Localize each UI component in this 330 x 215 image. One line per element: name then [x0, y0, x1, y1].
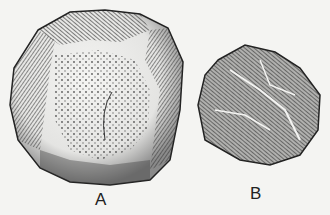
figure-label-b: B — [250, 184, 261, 204]
stone-tool-a — [10, 10, 183, 185]
figure-label-a: A — [95, 190, 106, 210]
illustration-canvas — [0, 0, 330, 215]
stone-tool-b — [198, 45, 320, 165]
